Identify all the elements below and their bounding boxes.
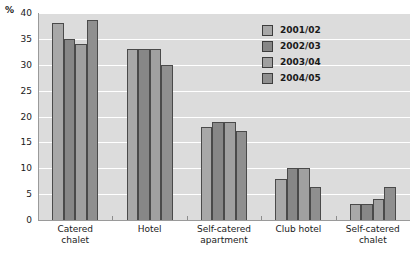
y-axis-line [38,13,39,221]
bar [236,131,248,220]
bar [138,49,150,220]
bar-group [127,13,173,220]
legend-label: 2002/03 [280,41,321,51]
x-axis-category-label: Self-catered chalet [336,224,410,246]
legend-label: 2004/05 [280,73,321,83]
legend-swatch [262,73,273,84]
bar [373,199,385,220]
bar [212,122,224,220]
bar [201,127,213,220]
legend-item[interactable]: 2001/02 [262,22,321,38]
bar [224,122,236,220]
x-axis-category-label: Self-catered apartment [187,224,261,246]
y-axis-tick-label: 15 [8,137,32,147]
y-axis-tick-label: 35 [8,34,32,44]
legend-item[interactable]: 2002/03 [262,38,321,54]
legend-label: 2003/04 [280,57,321,67]
legend-swatch [262,25,273,36]
bar-group [201,13,247,220]
bar [298,168,310,220]
y-axis-tick-label: 20 [8,112,32,122]
y-axis-tick-label: 30 [8,60,32,70]
legend-item[interactable]: 2003/04 [262,54,321,70]
bar [150,49,162,220]
bar [275,179,287,220]
bar [287,168,299,220]
y-axis-tick-label: 40 [8,8,32,18]
legend-label: 2001/02 [280,25,321,35]
bar-group [52,13,98,220]
bar [52,23,64,220]
bar [350,204,362,220]
bar-groups [38,13,410,220]
bar [87,20,99,220]
bar-group [350,13,396,220]
legend-swatch [262,41,273,52]
x-axis-category-label: Club hotel [261,224,335,235]
bar-chart: % 0510152025303540 Catered chaletHotelSe… [0,0,415,259]
bar [64,39,76,220]
y-axis-tick-label: 5 [8,189,32,199]
bar [361,204,373,220]
bar [310,187,322,220]
x-axis-category-label: Hotel [112,224,186,235]
legend: 2001/022002/032003/042004/05 [262,22,321,86]
x-axis-line [38,220,410,221]
bar [127,49,139,220]
y-axis-tick-label: 25 [8,86,32,96]
plot-area [38,13,410,220]
legend-swatch [262,57,273,68]
bar [384,187,396,220]
y-axis: 0510152025303540 [6,0,32,259]
bar [75,44,87,220]
legend-item[interactable]: 2004/05 [262,70,321,86]
x-axis-category-label: Catered chalet [38,224,112,246]
y-axis-tick-label: 0 [8,215,32,225]
bar [161,65,173,220]
y-axis-tick-label: 10 [8,163,32,173]
